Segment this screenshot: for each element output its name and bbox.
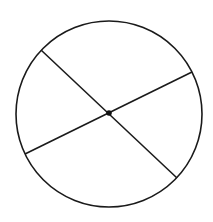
center-point [106, 110, 112, 116]
circle-diagram [0, 0, 213, 222]
